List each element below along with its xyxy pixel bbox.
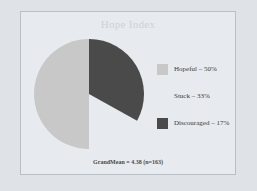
legend-label-hopeful: Hopeful – 50%: [174, 65, 217, 73]
chart-title: Hope Index: [21, 18, 235, 30]
legend-label-stuck: Stuck – 33%: [174, 92, 210, 100]
chart-legend: Hopeful – 50% Stuck – 33% Discouraged – …: [157, 59, 233, 140]
legend-label-discouraged: Discouraged – 17%: [174, 119, 229, 127]
chart-footnote: GrandMean = 4.38 (n=163): [21, 159, 235, 165]
legend-item-stuck[interactable]: Stuck – 33%: [157, 86, 233, 106]
pie-slice-discouraged: [89, 39, 144, 121]
legend-swatch-stuck: [157, 91, 168, 102]
legend-swatch-hopeful: [157, 64, 168, 75]
legend-item-discouraged[interactable]: Discouraged – 17%: [157, 113, 233, 133]
pie-svg: [32, 37, 146, 151]
pie-chart: [29, 34, 149, 154]
legend-swatch-discouraged: [157, 118, 168, 129]
pie-slice-hopeful: [34, 39, 89, 149]
legend-item-hopeful[interactable]: Hopeful – 50%: [157, 59, 233, 79]
chart-panel: Hope Index Hopeful – 50% Stuck – 33% Dis…: [20, 11, 236, 175]
